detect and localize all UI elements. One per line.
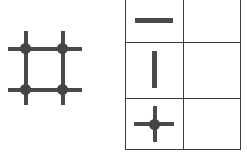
symbol-cell-vertical-line bbox=[126, 43, 184, 99]
lattice-node bbox=[57, 43, 68, 54]
figure-canvas bbox=[0, 0, 247, 154]
symbol-cell-horizontal-line bbox=[126, 0, 184, 43]
table-row bbox=[126, 0, 241, 43]
value-cell-horizontal-line bbox=[184, 0, 241, 43]
vertical-line-icon bbox=[152, 51, 157, 88]
table-row bbox=[126, 43, 241, 99]
symbol-legend-table bbox=[125, 0, 241, 150]
symbol-cell-cross-with-node bbox=[126, 99, 184, 150]
table-row bbox=[126, 99, 241, 150]
lattice-node bbox=[57, 84, 68, 95]
value-cell-cross-with-node bbox=[184, 99, 241, 150]
cross-center-node-icon bbox=[149, 119, 160, 130]
lattice-node bbox=[20, 84, 31, 95]
horizontal-line-icon bbox=[135, 18, 173, 23]
lattice-node bbox=[20, 43, 31, 54]
value-cell-vertical-line bbox=[184, 43, 241, 99]
lattice-diagram bbox=[0, 22, 100, 122]
